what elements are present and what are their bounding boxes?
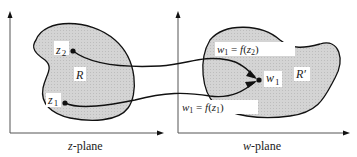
mapping-diagram: z2 z1 R w1 = f(z2) w1 = f(z1) w1 R′ z-pl…	[0, 0, 357, 157]
caption-z-plane: z-plane	[67, 139, 103, 153]
label-region-r-prime: R′	[295, 67, 306, 81]
caption-w-plane: w-plane	[243, 139, 281, 153]
label-region-r: R	[75, 68, 84, 82]
point-w1	[256, 77, 261, 82]
point-z2	[70, 48, 75, 53]
point-z1	[62, 100, 67, 105]
